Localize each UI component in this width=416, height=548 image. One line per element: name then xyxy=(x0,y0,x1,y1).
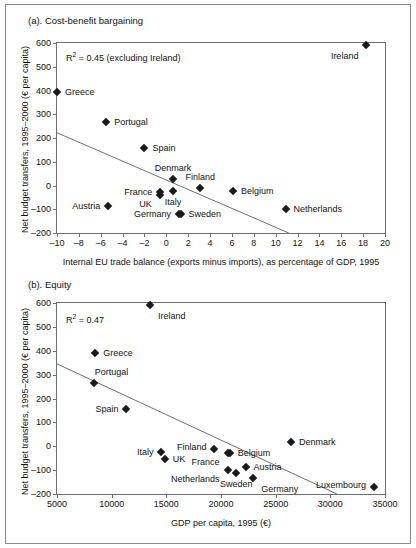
x-tick-label: 5000 xyxy=(47,494,67,509)
x-tick-label: 10 xyxy=(271,233,281,248)
data-point-label: Portugal xyxy=(95,367,129,377)
x-tick-label: 8 xyxy=(251,233,256,248)
figure-frame: (a). Cost-benefit bargaining Net budget … xyxy=(5,4,411,544)
x-tick-label: 20000 xyxy=(208,494,233,509)
data-point-label: France xyxy=(192,457,220,467)
data-point-label: Sweden xyxy=(220,479,253,489)
y-tick-label: 300 xyxy=(36,370,57,380)
y-tick-label: 500 xyxy=(36,62,57,72)
data-point-label: Spain xyxy=(152,143,175,153)
x-tick-label: 25000 xyxy=(263,494,288,509)
x-tick-label: 6 xyxy=(229,233,234,248)
data-point-label: Austria xyxy=(72,201,100,211)
data-point-label: Finland xyxy=(177,442,207,452)
data-point-label: UK xyxy=(173,454,186,464)
y-tick-label: 300 xyxy=(36,109,57,119)
x-tick-label: 4 xyxy=(208,233,213,248)
y-tick-label: 500 xyxy=(36,322,57,332)
chart-panel-cost-benefit: (a). Cost-benefit bargaining Net budget … xyxy=(6,5,412,277)
y-tick-label: 0 xyxy=(46,441,57,451)
x-tick-label: –4 xyxy=(118,233,128,248)
x-tick-label: 14 xyxy=(314,233,324,248)
data-point-label: Germany xyxy=(134,209,171,219)
x-tick-label: 18 xyxy=(358,233,368,248)
data-point-label: Germany xyxy=(261,484,298,494)
panel-a-y-axis-label: Net budget transfers, 1995–2000 (€ per c… xyxy=(20,46,30,233)
panel-a-x-axis-label: Internal EU trade balance (exports minus… xyxy=(56,257,386,267)
panel-b-y-axis-label: Net budget transfers, 1995–2000 (€ per c… xyxy=(20,308,30,495)
panel-a-plot-area: –200–1000100200300400500600–10–8–6–4–202… xyxy=(56,42,386,234)
y-tick-label: 0 xyxy=(46,181,57,191)
data-point-label: Greece xyxy=(65,87,95,97)
data-point-label: UK xyxy=(139,199,152,209)
x-tick-label: 2 xyxy=(186,233,191,248)
panel-b-regression-line xyxy=(57,303,387,496)
data-point-label: Netherlands xyxy=(171,474,220,484)
data-point-label: Greece xyxy=(103,348,133,358)
x-tick-label: 30000 xyxy=(318,494,343,509)
data-point-label: Austria xyxy=(254,462,282,472)
panel-b-plot-area: –200–10001002003004005006005000100001500… xyxy=(56,302,386,495)
panel-a-title: (a). Cost-benefit bargaining xyxy=(28,15,143,26)
data-point-label: Luxembourg xyxy=(316,480,366,490)
y-tick-label: 400 xyxy=(36,346,57,356)
y-tick-label: 100 xyxy=(36,157,57,167)
data-point-label: Belgium xyxy=(241,186,274,196)
x-tick-label: 35000 xyxy=(372,494,397,509)
data-point-label: Finland xyxy=(185,172,215,182)
x-tick-label: 20 xyxy=(380,233,390,248)
x-tick-label: 16 xyxy=(336,233,346,248)
x-tick-label: –6 xyxy=(96,233,106,248)
y-tick-label: 600 xyxy=(36,298,57,308)
x-tick-label: –10 xyxy=(49,233,64,248)
x-tick-label: 12 xyxy=(293,233,303,248)
data-point-label: Denmark xyxy=(299,437,336,447)
y-tick-label: 100 xyxy=(36,417,57,427)
y-tick-label: 200 xyxy=(36,133,57,143)
data-point-label: Italy xyxy=(165,197,182,207)
data-point-label: Ireland xyxy=(158,311,186,321)
y-tick-label: 600 xyxy=(36,38,57,48)
y-tick-label: 200 xyxy=(36,394,57,404)
data-point-label: France xyxy=(124,187,152,197)
chart-panel-equity: (b). Equity Net budget transfers, 1995–2… xyxy=(6,277,412,545)
data-point-label: Sweden xyxy=(189,209,222,219)
data-point-label: Italy xyxy=(137,447,154,457)
data-point-label: Portugal xyxy=(114,117,148,127)
y-tick-label: –100 xyxy=(31,204,57,214)
panel-b-title: (b). Equity xyxy=(28,279,71,290)
x-tick-label: 15000 xyxy=(154,494,179,509)
panel-b-x-axis-label: GDP per capita, 1995 (€) xyxy=(56,518,386,528)
data-point-label: Spain xyxy=(95,404,118,414)
x-tick-label: 0 xyxy=(164,233,169,248)
data-point-label: Ireland xyxy=(331,51,359,61)
y-tick-label: –100 xyxy=(31,465,57,475)
x-tick-label: –2 xyxy=(139,233,149,248)
data-point-label: Belgium xyxy=(238,448,271,458)
data-point-label: Netherlands xyxy=(294,204,343,214)
x-tick-label: 10000 xyxy=(99,494,124,509)
x-tick-label: –8 xyxy=(74,233,84,248)
